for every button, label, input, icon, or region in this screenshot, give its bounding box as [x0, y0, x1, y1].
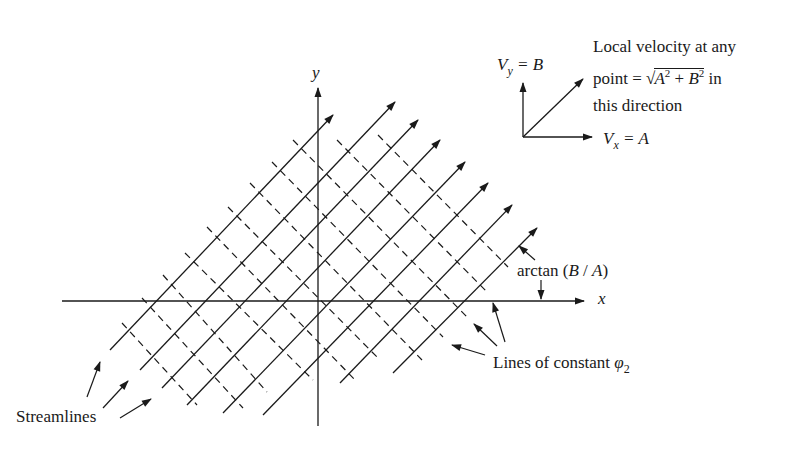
potential-pointer-arrows	[452, 303, 505, 355]
radicand-plus: +	[670, 69, 688, 88]
axes	[62, 88, 584, 426]
constant-potential-line	[250, 183, 422, 360]
streamline	[340, 205, 512, 383]
streamlines-label: Streamlines	[16, 408, 96, 425]
angle-label-prefix: arctan (	[517, 261, 568, 280]
vx-label: Vx = A	[603, 130, 649, 147]
streamline	[263, 183, 488, 415]
radicand-b: B	[688, 69, 698, 88]
y-axis-label: y	[312, 64, 320, 81]
constant-potential-line	[228, 207, 380, 360]
streamline-pointer-arrows	[87, 362, 151, 418]
phi-pointer-2	[474, 324, 497, 346]
streamline	[223, 162, 465, 413]
vy-symbol: V	[497, 55, 507, 74]
vy-subscript: y	[507, 64, 512, 78]
exponent-b: 2	[699, 67, 705, 79]
angle-label-a: A	[592, 261, 602, 280]
exponent-a: 2	[665, 67, 671, 79]
velocity-vector-legend	[523, 79, 592, 137]
vx-symbol: V	[603, 129, 613, 148]
velocity-note-suffix: in	[704, 69, 721, 88]
streamline	[110, 115, 333, 350]
velocity-note-line2: point = √A2 + B2 in	[593, 68, 722, 87]
vx-rhs: = A	[623, 129, 649, 148]
streamline-pointer-2	[103, 381, 128, 408]
constant-potential-line	[272, 162, 443, 337]
angle-arrow-to-streamline	[519, 246, 535, 260]
phi-pointer-1	[493, 303, 505, 342]
velocity-note-line3: this direction	[593, 97, 682, 114]
constant-potential-line	[163, 275, 267, 392]
vy-label: Vy = B	[497, 56, 543, 73]
phi-pointer-3	[452, 345, 485, 355]
angle-label: arctan (B / A)	[517, 262, 608, 279]
angle-label-b: B	[568, 261, 578, 280]
streamline	[140, 102, 395, 370]
radicand-a: A	[654, 69, 664, 88]
vx-subscript: x	[613, 138, 618, 152]
potential-lines-label: Lines of constant φ2	[493, 354, 630, 371]
angle-label-suffix: )	[602, 261, 608, 280]
vy-rhs: = B	[517, 55, 543, 74]
streamline-pointer-1	[87, 362, 100, 397]
angle-label-slash: /	[579, 261, 592, 280]
potential-label-text: Lines of constant	[493, 353, 614, 372]
phi-symbol: φ	[614, 353, 623, 372]
resultant-velocity-arrow	[523, 79, 583, 137]
velocity-note-line1: Local velocity at any	[593, 38, 736, 55]
x-axis-label: x	[598, 290, 606, 307]
streamline-pointer-3	[120, 399, 151, 418]
constant-potential-line	[293, 140, 467, 317]
sqrt-radicand: A2 + B2	[654, 68, 704, 87]
phi-subscript: 2	[624, 362, 630, 376]
potential-flow-diagram: y x Vy = B Vx = A Local velocity at any …	[0, 0, 794, 453]
velocity-note-prefix: point =	[593, 69, 646, 88]
streamlines	[110, 102, 537, 415]
